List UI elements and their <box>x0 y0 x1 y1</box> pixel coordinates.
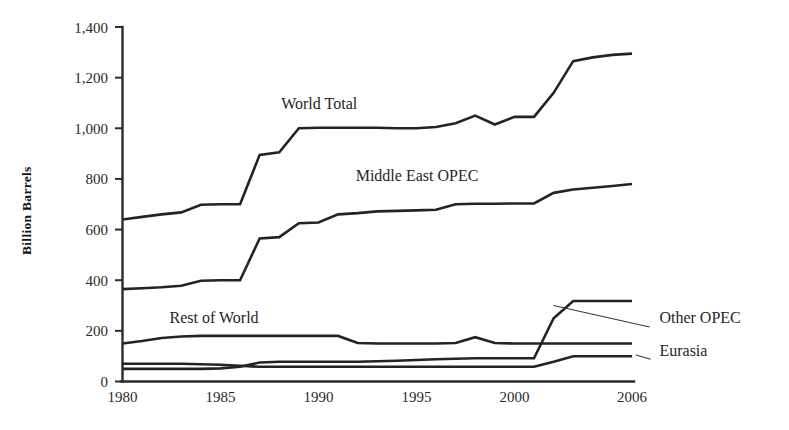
series-line-world-total <box>123 54 633 220</box>
series-label-rest-of-world: Rest of World <box>170 309 259 326</box>
x-tick-label: 2006 <box>617 389 648 405</box>
other-opec-leader <box>554 306 650 328</box>
y-tick-label: 1,200 <box>74 70 108 86</box>
y-tick-label: 1,400 <box>74 20 108 36</box>
eurasia-leader <box>636 355 651 359</box>
series-label-other-opec: Other OPEC <box>659 309 740 326</box>
series-line-middle-east-opec <box>123 184 633 289</box>
y-tick-label: 800 <box>86 171 109 187</box>
line-chart: Billion Barrels 02004006008001,0001,2001… <box>0 0 789 430</box>
series-labels-group: World TotalMiddle East OPECRest of World… <box>170 95 741 359</box>
leader-lines-group <box>554 306 651 360</box>
y-axis-title: Billion Barrels <box>19 166 34 255</box>
y-axis-ticks: 02004006008001,0001,2001,400 <box>74 20 122 391</box>
y-tick-label: 1,000 <box>74 121 108 137</box>
x-tick-label: 1980 <box>108 389 138 405</box>
x-tick-label: 1990 <box>303 389 333 405</box>
y-axis-title-label: Billion Barrels <box>19 166 34 255</box>
y-tick-label: 200 <box>86 323 109 339</box>
y-tick-label: 600 <box>86 222 109 238</box>
y-tick-label: 400 <box>86 273 109 289</box>
x-axis-ticks: 198019851990199520002006 <box>108 389 648 405</box>
series-line-rest-of-world <box>123 336 633 344</box>
series-label-middle-east-opec: Middle East OPEC <box>356 167 479 184</box>
x-tick-label: 2000 <box>499 389 529 405</box>
x-tick-label: 1985 <box>205 389 235 405</box>
y-tick-label: 0 <box>101 374 109 390</box>
series-label-eurasia: Eurasia <box>659 342 707 359</box>
chart-container: Billion Barrels 02004006008001,0001,2001… <box>0 0 789 430</box>
x-tick-label: 1995 <box>401 389 431 405</box>
series-label-world-total: World Total <box>281 95 358 112</box>
